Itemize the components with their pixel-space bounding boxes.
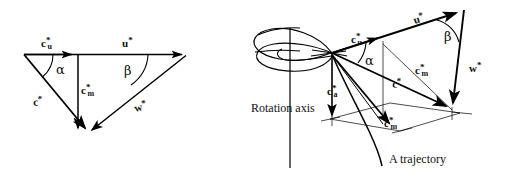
left-label-beta: β xyxy=(124,63,132,78)
velocity-triangle-figure: c*u u* c*m c* w* α β c*u u* c*m c* w* c*… xyxy=(0,0,505,187)
left-label-cm: c*m xyxy=(81,82,94,98)
left-label-cm-sub: m xyxy=(87,89,94,98)
left-label-c: c* xyxy=(32,94,43,109)
right-w-vector xyxy=(453,10,464,103)
right-label-c: c* xyxy=(391,76,402,90)
right-c-vector xyxy=(332,53,446,106)
ground-edge-extension-right xyxy=(452,112,472,114)
right-label-cu-sub: u xyxy=(357,38,361,47)
hub-stroke-b xyxy=(311,53,332,56)
left-alpha-arc xyxy=(43,55,53,77)
right-label-w-sup: * xyxy=(477,60,482,70)
left-label-cu: c*u xyxy=(41,35,52,51)
left-w-vector xyxy=(92,56,186,131)
right-label-alpha: α xyxy=(365,53,374,68)
right-3d-group xyxy=(254,10,472,168)
right-label-cm-lower-sub: m xyxy=(390,122,397,131)
right-label-c-sup: * xyxy=(396,76,401,86)
left-label-c-sup: * xyxy=(37,94,43,104)
right-label-w-base: w xyxy=(469,62,477,74)
left-triangle-group xyxy=(24,55,186,131)
right-label-w: w* xyxy=(469,60,481,74)
left-label-u: u* xyxy=(122,35,133,49)
right-label-cm-upper: c*m xyxy=(415,62,428,78)
left-beta-arc xyxy=(131,55,148,86)
trajectory-curve xyxy=(331,52,382,166)
right-label-cu: c*u xyxy=(351,31,362,47)
right-label-ca: c*a xyxy=(327,83,337,99)
left-label-alpha: α xyxy=(56,62,65,77)
rotation-axis-label: Rotation axis xyxy=(251,101,315,116)
left-c-vector xyxy=(24,55,85,129)
helix-loop-outer xyxy=(254,28,332,60)
right-label-beta: β xyxy=(444,29,452,44)
left-label-cu-sub: u xyxy=(47,42,51,51)
right-label-cm-lower: c*m xyxy=(384,115,397,131)
right-label-ca-sub: a xyxy=(333,90,337,99)
left-label-u-sup: * xyxy=(128,35,133,45)
right-label-cm-upper-sub: m xyxy=(421,69,428,78)
trajectory-label: A trajectory xyxy=(389,152,446,167)
